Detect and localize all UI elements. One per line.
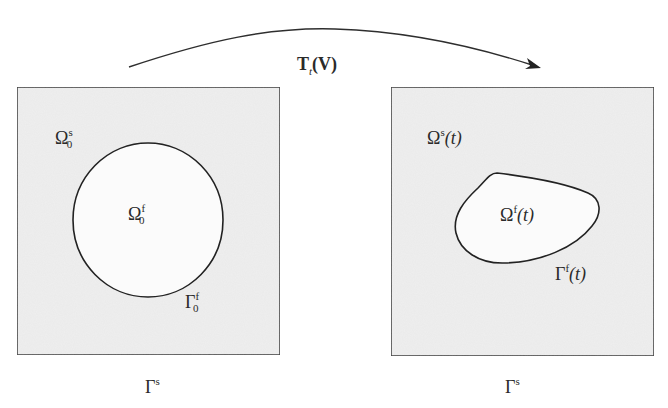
reference-fluid-inclusion	[73, 143, 223, 297]
reference-solid-label: Ωs0	[55, 129, 72, 147]
deformed-interface-label: Γf(t)	[555, 265, 586, 283]
reference-fluid-label: Ωf0	[128, 205, 145, 223]
deformed-solid-label: Ωs(t)	[427, 129, 462, 147]
reference-boundary-label: Γs	[145, 378, 160, 396]
deformed-fluid-label: Ωf(t)	[500, 206, 534, 224]
reference-interface-label: Γf0	[185, 293, 199, 311]
deformed-boundary-label: Γs	[505, 378, 520, 396]
transform-label: Tt(V)	[297, 55, 337, 73]
